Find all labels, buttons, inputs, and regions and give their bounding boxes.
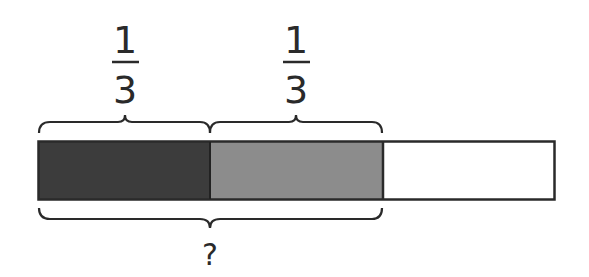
fraction-label-1: 1 3 xyxy=(112,18,139,112)
bar-part-2 xyxy=(210,142,383,199)
bar-part-1 xyxy=(39,142,210,199)
fraction-label-2: 1 3 xyxy=(283,18,310,112)
bar-part-3 xyxy=(383,143,554,199)
bottom-brace xyxy=(39,208,382,228)
fraction-2-numerator: 1 xyxy=(284,18,308,62)
fraction-bar-diagram: 1 3 1 3 ? xyxy=(0,0,589,277)
fraction-1-numerator: 1 xyxy=(113,18,137,62)
fraction-1-denominator: 3 xyxy=(113,68,137,112)
top-brace-1 xyxy=(39,115,210,133)
top-brace-2 xyxy=(210,115,382,133)
unknown-total-label: ? xyxy=(202,237,218,272)
fraction-2-denominator: 3 xyxy=(284,68,308,112)
fraction-bar xyxy=(39,142,555,200)
